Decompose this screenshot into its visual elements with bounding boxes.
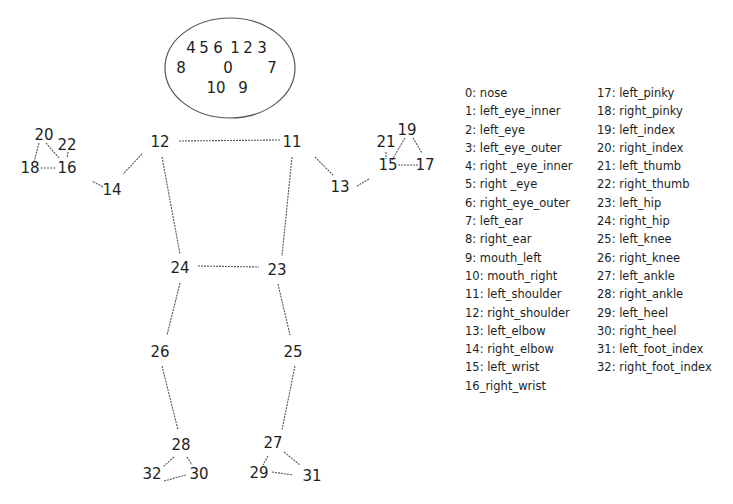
- keypoint-label-20: 20: [34, 126, 53, 144]
- legend-item: 30: right_heel: [597, 322, 712, 340]
- legend-item: 18: right_pinky: [597, 102, 712, 120]
- legend-item: 13: left_elbow: [465, 322, 573, 340]
- keypoint-label-25: 25: [283, 343, 302, 361]
- keypoint-label-12: 12: [150, 133, 169, 151]
- keypoint-label-18: 18: [20, 159, 39, 177]
- skeleton-connection: [162, 157, 180, 254]
- keypoint-label-8: 8: [176, 59, 186, 77]
- skeleton-connection: [278, 284, 290, 335]
- legend-item: 10: mouth_right: [465, 267, 573, 285]
- skeleton-connection: [284, 452, 300, 465]
- legend-item: 7: left_ear: [465, 212, 573, 230]
- legend-item: 9: mouth_left: [465, 249, 573, 267]
- skeleton-connections: [34, 138, 422, 481]
- legend-column-1: 0: nose 1: left_eye_inner 2: left_eye 3:…: [465, 84, 573, 395]
- legend-item: 21: left_thumb: [597, 157, 712, 175]
- skeleton-connection: [187, 457, 192, 465]
- legend-item: 27: left_ankle: [597, 267, 712, 285]
- legend-item: 3: left_eye_outer: [465, 139, 573, 157]
- legend-item: 4: right _eye_inner: [465, 157, 573, 175]
- keypoint-label-31: 31: [302, 467, 321, 485]
- legend-item: 29: left_heel: [597, 304, 712, 322]
- keypoint-label-2: 2: [243, 39, 253, 57]
- keypoint-label-13: 13: [330, 178, 349, 196]
- keypoint-label-21: 21: [376, 133, 395, 151]
- legend-item: 32: right_foot_index: [597, 358, 712, 376]
- skeleton-connection: [92, 181, 103, 187]
- keypoint-label-22: 22: [57, 136, 76, 154]
- keypoint-label-1: 1: [230, 39, 240, 57]
- skeleton-connection: [179, 140, 280, 141]
- legend-item: 20: right_index: [597, 139, 712, 157]
- keypoint-label-3: 3: [257, 39, 267, 57]
- keypoint-label-27: 27: [263, 434, 282, 452]
- keypoint-label-4: 4: [186, 39, 196, 57]
- keypoint-label-6: 6: [213, 39, 223, 57]
- skeleton-connection: [282, 366, 295, 430]
- legend-item: 8: right_ear: [465, 230, 573, 248]
- skeleton-connection: [315, 157, 333, 175]
- keypoint-label-23: 23: [267, 261, 286, 279]
- legend-item: 28: right_ankle: [597, 285, 712, 303]
- keypoint-labels: 4561238071091211141320221816211915172423…: [20, 39, 434, 485]
- legend-item: 23: left_hip: [597, 194, 712, 212]
- legend-item: 24: right_hip: [597, 212, 712, 230]
- skeleton-connection: [198, 266, 259, 267]
- keypoint-label-17: 17: [415, 156, 434, 174]
- keypoint-label-26: 26: [150, 343, 169, 361]
- skeleton-connection: [123, 154, 142, 174]
- keypoint-label-5: 5: [199, 39, 209, 57]
- keypoint-label-9: 9: [238, 79, 248, 97]
- legend-item: 6: right_eye_outer: [465, 194, 573, 212]
- legend-item: 26: right_knee: [597, 249, 712, 267]
- keypoint-label-7: 7: [267, 59, 277, 77]
- legend-item: 12: right_shoulder: [465, 304, 573, 322]
- keypoint-label-14: 14: [102, 181, 121, 199]
- skeleton-connection: [163, 457, 174, 467]
- legend-column-2: 17: left_pinky 18: right_pinky 19: left_…: [597, 84, 712, 377]
- legend-item: 2: left_eye: [465, 121, 573, 139]
- legend-item: 15: left_wrist: [465, 358, 573, 376]
- keypoint-label-24: 24: [170, 259, 189, 277]
- legend-item: 31: left_foot_index: [597, 340, 712, 358]
- keypoint-label-15: 15: [378, 156, 397, 174]
- legend-item: 17: left_pinky: [597, 84, 712, 102]
- legend-item: 5: right _eye: [465, 175, 573, 193]
- skeleton-connection: [164, 475, 186, 481]
- keypoint-label-32: 32: [142, 465, 161, 483]
- legend-item: 11: left_shoulder: [465, 285, 573, 303]
- legend-item: 25: left_knee: [597, 230, 712, 248]
- skeleton-connection: [167, 283, 180, 335]
- legend-item: 19: left_index: [597, 121, 712, 139]
- legend-item: 22: right_thumb: [597, 175, 712, 193]
- skeleton-connection: [272, 472, 293, 475]
- keypoint-label-29: 29: [249, 464, 268, 482]
- skeleton-connection: [162, 366, 178, 430]
- keypoint-label-19: 19: [397, 121, 416, 139]
- keypoint-label-11: 11: [282, 133, 301, 151]
- keypoint-label-28: 28: [171, 436, 190, 454]
- keypoint-label-30: 30: [189, 465, 208, 483]
- legend-item: 0: nose: [465, 84, 573, 102]
- skeleton-connection: [357, 179, 369, 186]
- keypoint-label-10: 10: [206, 79, 225, 97]
- skeleton-connection: [282, 157, 292, 256]
- legend-item: 14: right_elbow: [465, 340, 573, 358]
- legend-item: 16_right_wrist: [465, 377, 573, 395]
- keypoint-label-16: 16: [57, 159, 76, 177]
- legend-item: 1: left_eye_inner: [465, 102, 573, 120]
- skeleton-connection: [413, 138, 422, 153]
- keypoint-label-0: 0: [223, 59, 233, 77]
